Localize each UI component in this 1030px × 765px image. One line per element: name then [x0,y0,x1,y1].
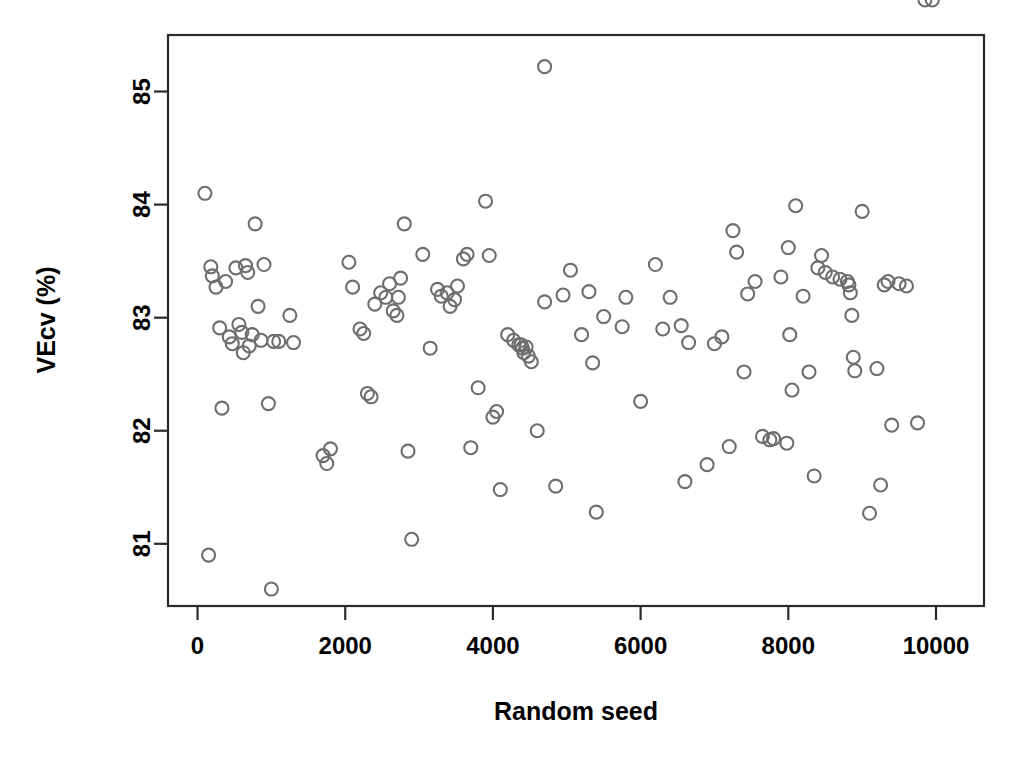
data-point [557,289,570,302]
data-point [780,437,793,450]
data-point [616,320,629,333]
y-tick-label: 82 [129,417,156,444]
data-point [786,384,799,397]
y-tick-label: 85 [129,78,156,105]
data-point [738,365,751,378]
data-point [863,507,876,520]
x-axis-ticks: 0200040006000800010000 [191,606,970,659]
data-point [538,60,551,73]
data-point [874,479,887,492]
data-point [283,309,296,322]
data-point [287,336,300,349]
x-axis-title: Random seed [494,697,658,725]
data-point [675,319,688,332]
data-point [741,287,754,300]
x-tick-label: 6000 [614,632,667,659]
data-point [782,241,795,254]
data-point [464,441,477,454]
data-point [402,445,415,458]
data-point [802,365,815,378]
data-point [723,440,736,453]
data-point [346,281,359,294]
data-point [210,281,223,294]
data-point [730,246,743,259]
data-point [361,387,374,400]
data-point [847,351,860,364]
data-point [619,291,632,304]
y-tick-label: 83 [129,304,156,331]
data-point [219,275,232,288]
data-point [258,258,271,271]
data-point [774,270,787,283]
data-point [649,258,662,271]
data-point [262,397,275,410]
data-point [597,310,610,323]
plot-canvas: 8182838485 0200040006000800010000 VEcv (… [0,0,1030,765]
data-point [900,280,913,293]
data-point [815,249,828,262]
data-point [678,475,691,488]
data-point [797,290,810,303]
y-tick-label: 81 [129,530,156,557]
data-point [472,381,485,394]
data-point [789,199,802,212]
scatter-plot-figure: 8182838485 0200040006000800010000 VEcv (… [0,0,1030,765]
x-tick-label: 8000 [762,632,815,659]
data-point [590,506,603,519]
data-point [202,549,215,562]
data-point [808,469,821,482]
data-point [749,275,762,288]
data-point [575,328,588,341]
data-point [848,364,861,377]
data-points-layer [198,0,938,596]
data-point [232,318,245,331]
data-point [682,336,695,349]
data-point [856,205,869,218]
data-point [549,480,562,493]
x-tick-label: 0 [191,632,204,659]
data-point [215,402,228,415]
data-point [664,291,677,304]
data-point [320,457,333,470]
data-point [582,285,595,298]
data-point [451,280,464,293]
x-tick-label: 2000 [319,632,372,659]
data-point [398,217,411,230]
data-point [416,248,429,261]
data-point [870,362,883,375]
data-point [424,342,437,355]
data-point [494,483,507,496]
data-point [483,249,496,262]
data-point [392,291,405,304]
data-point [538,295,551,308]
data-point [394,272,407,285]
data-point [198,187,211,200]
data-point [249,217,262,230]
x-tick-label: 10000 [903,632,970,659]
data-point [701,458,714,471]
data-point [656,322,669,335]
data-point [265,583,278,596]
data-point [878,278,891,291]
y-axis-ticks: 8182838485 [129,78,169,557]
data-point [365,390,378,403]
data-point [911,416,924,429]
y-tick-label: 84 [129,191,156,218]
data-point [342,256,355,269]
data-point [845,309,858,322]
data-point [405,533,418,546]
plot-frame [168,35,984,606]
data-point [252,300,265,313]
data-point [531,424,544,437]
data-point [586,356,599,369]
y-axis-title: VEcv (%) [32,267,60,374]
data-point [726,224,739,237]
data-point [634,395,647,408]
data-point [564,264,577,277]
data-point [783,328,796,341]
data-point [479,195,492,208]
data-point [885,419,898,432]
x-tick-label: 4000 [466,632,519,659]
